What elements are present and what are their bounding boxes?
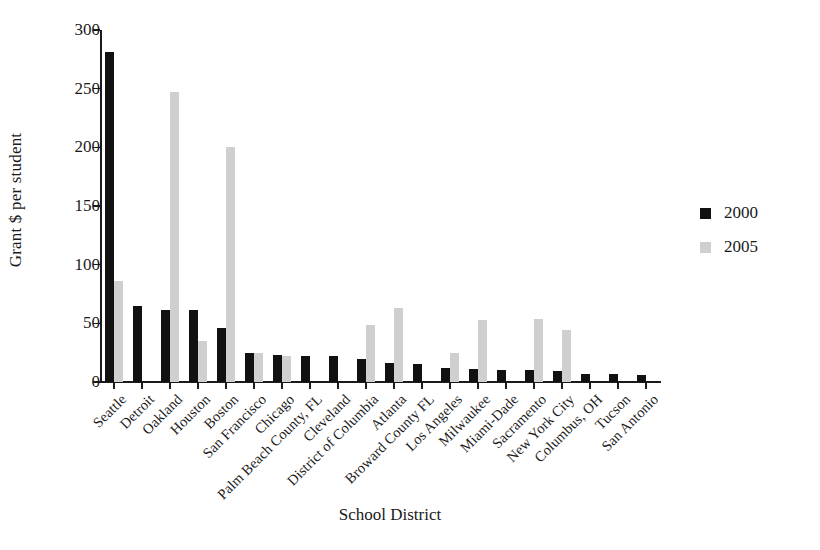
bar-group	[553, 30, 572, 382]
x-tick-mark	[225, 382, 227, 389]
x-tick-mark	[421, 382, 423, 389]
legend-swatch-icon	[700, 242, 711, 253]
legend-label: 2005	[724, 237, 758, 257]
bar-group	[273, 30, 292, 382]
bar-group	[105, 30, 124, 382]
legend-item-2005[interactable]: 2005	[700, 230, 810, 264]
x-axis-title: School District	[0, 505, 780, 525]
bar-group	[245, 30, 264, 382]
bar-group	[581, 30, 600, 382]
y-tick-label: 50	[54, 313, 100, 333]
legend: 20002005	[700, 196, 810, 264]
bar-group	[161, 30, 180, 382]
x-tick-mark	[617, 382, 619, 389]
bar-2000	[105, 52, 114, 382]
x-tick-mark	[309, 382, 311, 389]
x-tick-mark	[589, 382, 591, 389]
y-tick-label: 250	[54, 79, 100, 99]
x-tick-mark	[365, 382, 367, 389]
bar-2005	[226, 147, 235, 382]
bar-group	[469, 30, 488, 382]
bar-group	[217, 30, 236, 382]
bar-2005	[170, 92, 179, 382]
x-tick-mark	[141, 382, 143, 389]
x-tick-mark	[449, 382, 451, 389]
x-tick-mark	[197, 382, 199, 389]
bar-chart: Grant $ per student 050100150200250300 S…	[0, 0, 820, 550]
x-tick-mark	[253, 382, 255, 389]
x-tick-mark	[169, 382, 171, 389]
bar-group	[133, 30, 152, 382]
legend-swatch-icon	[700, 208, 711, 219]
bar-group	[329, 30, 348, 382]
x-tick-mark	[645, 382, 647, 389]
y-tick-label: 300	[54, 20, 100, 40]
x-tick-mark	[337, 382, 339, 389]
bar-group	[189, 30, 208, 382]
legend-item-2000[interactable]: 2000	[700, 196, 810, 230]
x-tick-mark	[561, 382, 563, 389]
x-tick-mark	[281, 382, 283, 389]
bar-group	[413, 30, 432, 382]
x-tick-mark	[533, 382, 535, 389]
bar-group	[301, 30, 320, 382]
x-tick-mark	[505, 382, 507, 389]
x-tick-mark	[393, 382, 395, 389]
bar-group	[637, 30, 656, 382]
bar-2005	[114, 281, 123, 382]
y-tick-label: 150	[54, 196, 100, 216]
y-tick-label: 0	[54, 372, 100, 392]
x-tick-mark	[477, 382, 479, 389]
x-tick-mark	[113, 382, 115, 389]
bar-group	[357, 30, 376, 382]
legend-label: 2000	[724, 203, 758, 223]
bar-group	[525, 30, 544, 382]
y-axis-ticks: 050100150200250300	[0, 0, 100, 550]
y-tick-label: 100	[54, 255, 100, 275]
bar-group	[609, 30, 628, 382]
y-tick-label: 200	[54, 137, 100, 157]
